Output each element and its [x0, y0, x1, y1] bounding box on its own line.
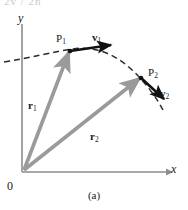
x-axis-label: x	[171, 163, 176, 175]
y-axis-label: y	[18, 12, 23, 24]
vector-label-r2-sub: 2	[95, 135, 99, 144]
point-label-p2-sub: 2	[154, 71, 158, 80]
vector-label-v1: v1	[92, 32, 101, 45]
vector-label-r1: r1	[28, 100, 37, 113]
point-label-p1-sub: 1	[62, 37, 66, 46]
point-label-p2: P2	[148, 67, 158, 80]
vector-label-v2-sub: 2	[166, 92, 170, 101]
point-marker-p1	[68, 49, 73, 54]
point-marker-p2	[139, 76, 144, 81]
vector-label-r1-sub: 1	[33, 104, 37, 113]
physics-figure: 2v / 2n	[0, 0, 188, 210]
vector-label-v2: v2	[160, 88, 169, 101]
vector-label-r2: r2	[90, 131, 99, 144]
figure-caption: (a)	[0, 189, 188, 201]
vector-label-v1-sub: 1	[98, 36, 102, 45]
point-label-p1: P1	[56, 33, 66, 46]
